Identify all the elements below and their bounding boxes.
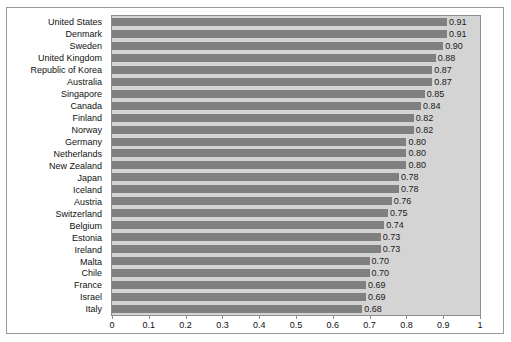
x-tick-mark: [112, 316, 113, 319]
category-label: Chile: [7, 270, 107, 278]
bar: [112, 269, 370, 277]
bar: [112, 173, 399, 181]
x-tick-label: 0.8: [400, 320, 413, 330]
category-label: Australia: [7, 79, 107, 87]
bar: [112, 185, 399, 193]
x-tick-label: 1: [477, 320, 482, 330]
bar-value-label: 0.75: [388, 209, 408, 218]
bar-value-label: 0.76: [392, 197, 412, 206]
category-label: United States: [7, 19, 107, 27]
bar-row: 0.80: [112, 138, 480, 146]
bar: [112, 245, 381, 253]
bar-row: 0.78: [112, 185, 480, 193]
bar-row-list: 0.910.910.900.880.870.870.850.840.820.82…: [112, 16, 480, 315]
bar: [112, 221, 384, 229]
bar-row: 0.68: [112, 305, 480, 313]
x-tick-mark: [296, 316, 297, 319]
category-label: Germany: [7, 139, 107, 147]
category-label: Israel: [7, 294, 107, 302]
bar: [112, 209, 388, 217]
bar: [112, 138, 406, 146]
bar-value-label: 0.84: [421, 101, 441, 110]
bar-value-label: 0.70: [370, 257, 390, 266]
category-label: Italy: [7, 306, 107, 314]
x-tick-label: 0: [109, 320, 114, 330]
bar-row: 0.69: [112, 293, 480, 301]
category-label: Austria: [7, 198, 107, 206]
bar-value-label: 0.80: [406, 161, 426, 170]
x-tick-label: 0.4: [253, 320, 266, 330]
bar-row: 0.84: [112, 102, 480, 110]
bar: [112, 293, 366, 301]
x-axis: 00.10.20.30.40.50.60.70.80.91: [111, 316, 481, 336]
bar-row: 0.82: [112, 114, 480, 122]
bar-value-label: 0.91: [447, 17, 467, 26]
bar-value-label: 0.87: [432, 77, 452, 86]
category-label: Republic of Korea: [7, 67, 107, 75]
category-label: Malta: [7, 258, 107, 266]
bar-row: 0.78: [112, 173, 480, 181]
category-label: Belgium: [7, 222, 107, 230]
bar-value-label: 0.82: [414, 125, 434, 134]
bar-value-label: 0.74: [384, 221, 404, 230]
category-label: New Zealand: [7, 162, 107, 170]
category-label: Japan: [7, 174, 107, 182]
x-tick-label: 0.2: [179, 320, 192, 330]
category-label: United Kingdom: [7, 55, 107, 63]
bar: [112, 257, 370, 265]
bar: [112, 78, 432, 86]
bar-row: 0.87: [112, 66, 480, 74]
bar-value-label: 0.69: [366, 280, 386, 289]
bar: [112, 233, 381, 241]
bar-row: 0.76: [112, 197, 480, 205]
category-label: Iceland: [7, 186, 107, 194]
category-label: Singapore: [7, 91, 107, 99]
category-label: France: [7, 282, 107, 290]
bar-row: 0.82: [112, 126, 480, 134]
bar-value-label: 0.78: [399, 185, 419, 194]
x-tick-mark: [222, 316, 223, 319]
x-tick-label: 0.6: [327, 320, 340, 330]
category-label: Switzerland: [7, 210, 107, 218]
bar: [112, 149, 406, 157]
x-tick-label: 0.3: [216, 320, 229, 330]
bar-value-label: 0.78: [399, 173, 419, 182]
chart-frame: United States Denmark Sweden United King…: [6, 7, 504, 334]
category-label: Norway: [7, 127, 107, 135]
bar: [112, 66, 432, 74]
bar: [112, 126, 414, 134]
bar-value-label: 0.88: [436, 53, 456, 62]
bar-value-label: 0.85: [425, 89, 445, 98]
category-label-list: United States Denmark Sweden United King…: [7, 17, 107, 316]
bar-row: 0.87: [112, 78, 480, 86]
bar: [112, 197, 392, 205]
bar-row: 0.85: [112, 90, 480, 98]
bar-row: 0.88: [112, 54, 480, 62]
bar-row: 0.80: [112, 149, 480, 157]
category-label: Sweden: [7, 43, 107, 51]
bar: [112, 18, 447, 26]
x-tick-label: 0.5: [290, 320, 303, 330]
x-tick-label: 0.7: [363, 320, 376, 330]
x-tick-mark: [480, 316, 481, 319]
bar: [112, 281, 366, 289]
bar-value-label: 0.91: [447, 29, 467, 38]
bar-value-label: 0.87: [432, 65, 452, 74]
bar-row: 0.91: [112, 18, 480, 26]
bar: [112, 102, 421, 110]
bar-value-label: 0.82: [414, 113, 434, 122]
bar-row: 0.70: [112, 269, 480, 277]
bar: [112, 114, 414, 122]
bar-value-label: 0.73: [381, 245, 401, 254]
x-tick-mark: [186, 316, 187, 319]
bar-row: 0.70: [112, 257, 480, 265]
bar-row: 0.91: [112, 30, 480, 38]
x-tick-mark: [443, 316, 444, 319]
bar: [112, 30, 447, 38]
x-tick-mark: [406, 316, 407, 319]
bar: [112, 90, 425, 98]
bar-value-label: 0.69: [366, 292, 386, 301]
category-label: Finland: [7, 115, 107, 123]
x-tick-mark: [149, 316, 150, 319]
x-tick-mark: [259, 316, 260, 319]
